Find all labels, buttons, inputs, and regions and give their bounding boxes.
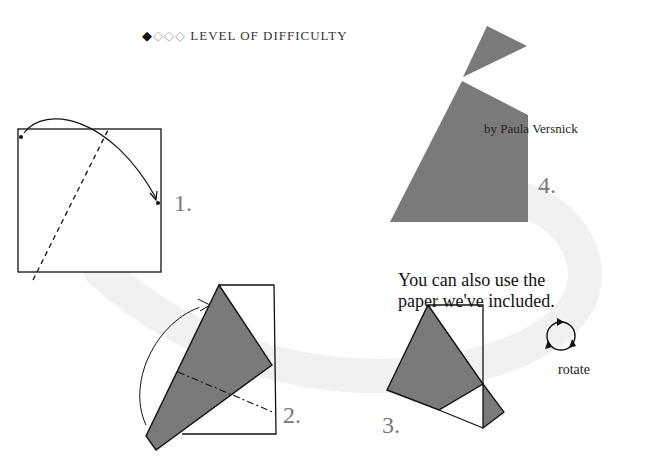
rotate-label: rotate xyxy=(558,362,590,378)
step-number-2: 2. xyxy=(283,402,301,429)
step-number-3: 3. xyxy=(382,412,400,439)
diagram-canvas xyxy=(0,0,645,462)
step-number-1: 1. xyxy=(174,190,192,217)
step-number-4: 4. xyxy=(538,172,556,199)
difficulty-filled-icon: ◆ xyxy=(142,28,153,43)
paper-note: You can also use the paper we've include… xyxy=(398,270,638,312)
author-credit: by Paula Versnick xyxy=(484,121,578,137)
note-line-1: You can also use the xyxy=(398,270,638,291)
difficulty-empty-icon: ◇◇◇ xyxy=(153,28,186,43)
step-1-diagram xyxy=(18,119,161,280)
note-line-2: paper we've included. xyxy=(398,291,638,312)
difficulty-label: LEVEL OF DIFFICULTY xyxy=(190,28,347,43)
difficulty-rating: ◆◇◇◇ LEVEL OF DIFFICULTY xyxy=(142,28,348,44)
